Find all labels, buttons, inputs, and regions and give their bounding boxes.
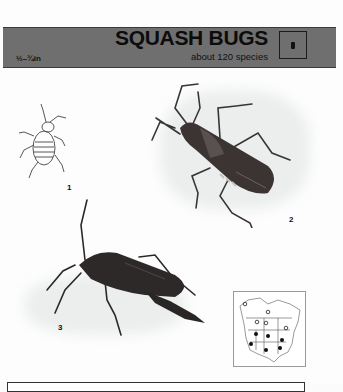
bug-icon-box [279,31,307,59]
header-band: ½–¾in SQUASH BUGS about 120 species [3,27,336,68]
figure-1-label: 1 [67,183,71,192]
figure-2-label: 2 [289,215,293,224]
north-america-map [234,292,305,366]
species-count: about 120 species [191,51,268,62]
range-map [233,291,306,367]
description-box [7,382,305,392]
page-title: SQUASH BUGS [115,26,268,50]
figure-3-adult-side: 3 [35,195,225,345]
nymph-illustration [10,100,80,195]
bug-silhouette-icon [291,42,295,49]
adult-side-illustration [35,195,225,345]
size-range-label: ½–¾in [16,54,41,63]
figure-1-nymph: 1 [10,100,80,195]
figure-3-label: 3 [58,323,62,332]
